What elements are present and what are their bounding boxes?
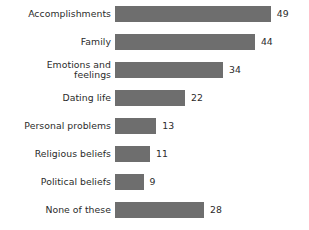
bar-row: Emotions and feelings 34 xyxy=(0,56,309,84)
bar-value-label: 49 xyxy=(277,9,289,19)
bar-row: None of these 28 xyxy=(0,196,309,224)
bar-track: 22 xyxy=(115,84,309,112)
bar-row: Religious beliefs 11 xyxy=(0,140,309,168)
bar-value-label: 22 xyxy=(191,93,203,103)
bar-track: 11 xyxy=(115,140,309,168)
bar-value-label: 28 xyxy=(210,205,222,215)
bar-religious-beliefs xyxy=(115,146,150,162)
bar-row: Dating life 22 xyxy=(0,84,309,112)
bar-emotions-and-feelings xyxy=(115,62,223,78)
bar-track: 28 xyxy=(115,196,309,224)
category-label: Religious beliefs xyxy=(0,149,115,160)
bar-accomplishments xyxy=(115,6,271,22)
bar-dating-life xyxy=(115,90,185,106)
horizontal-bar-chart: Accomplishments 49 Family 44 Emotions an… xyxy=(0,0,309,230)
bar-none-of-these xyxy=(115,202,204,218)
bar-value-label: 13 xyxy=(162,121,174,131)
bar-family xyxy=(115,34,255,50)
bar-political-beliefs xyxy=(115,174,144,190)
bar-row: Family 44 xyxy=(0,28,309,56)
category-label: None of these xyxy=(0,205,115,216)
bar-track: 9 xyxy=(115,168,309,196)
category-label: Personal problems xyxy=(0,121,115,132)
bar-row: Political beliefs 9 xyxy=(0,168,309,196)
bar-track: 49 xyxy=(115,0,309,28)
bar-track: 13 xyxy=(115,112,309,140)
category-label: Dating life xyxy=(0,93,115,104)
bar-value-label: 44 xyxy=(261,37,273,47)
bar-value-label: 11 xyxy=(156,149,168,159)
bar-value-label: 34 xyxy=(229,65,241,75)
category-label: Emotions and feelings xyxy=(0,60,115,81)
bar-personal-problems xyxy=(115,118,156,134)
category-label: Accomplishments xyxy=(0,9,115,20)
bar-row: Accomplishments 49 xyxy=(0,0,309,28)
bar-value-label: 9 xyxy=(150,177,156,187)
bar-track: 34 xyxy=(115,56,309,84)
category-label: Political beliefs xyxy=(0,177,115,188)
category-label: Family xyxy=(0,37,115,48)
bar-row: Personal problems 13 xyxy=(0,112,309,140)
bar-track: 44 xyxy=(115,28,309,56)
